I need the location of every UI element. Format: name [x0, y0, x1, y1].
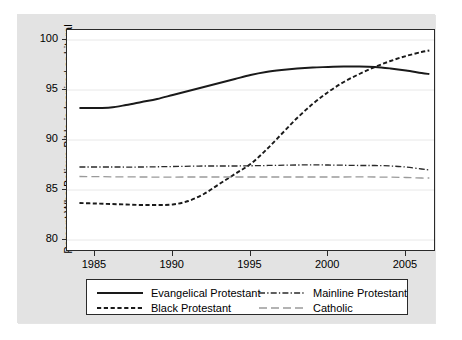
legend-key-long-dash-icon [258, 302, 306, 314]
legend-key-dashed-icon [96, 302, 144, 314]
legend-label-black-protestant: Black Protestant [151, 302, 231, 314]
legend-label-catholic: Catholic [313, 302, 353, 314]
x-tick-mark-1985 [94, 251, 95, 256]
x-tick-mark-2000 [327, 251, 328, 256]
plot-area [66, 29, 435, 251]
x-tick-mark-1995 [250, 251, 251, 256]
y-tick-label-85: 85 [30, 183, 58, 194]
legend-entry-black-protestant: Black Protestant [96, 300, 231, 316]
x-tick-label-1990: 1990 [152, 258, 192, 270]
x-tick-label-1995: 1995 [230, 258, 270, 270]
y-tick-mark-80 [62, 239, 66, 240]
legend-entry-mainline-protestant: Mainline Protestant [258, 285, 407, 301]
series-line-evangelical-protestant [79, 66, 429, 108]
y-tick-mark-95 [62, 89, 66, 90]
x-tick-mark-1990 [172, 251, 173, 256]
chart-legend: Evangelical Protestant Black Protestant … [86, 279, 408, 315]
x-tick-label-2005: 2005 [385, 258, 425, 270]
legend-key-dash-dot-icon [258, 287, 306, 299]
legend-entry-evangelical-protestant: Evangelical Protestant [96, 285, 260, 301]
y-tick-mark-85 [62, 189, 66, 190]
series-line-catholic [79, 177, 429, 179]
x-tick-label-2000: 2000 [307, 258, 347, 270]
legend-entry-catholic: Catholic [258, 300, 353, 316]
y-tick-mark-100 [62, 39, 66, 40]
y-tick-label-100: 100 [30, 33, 58, 44]
y-axis: Percent Who Believe Bible is Inspired or… [30, 0, 62, 340]
y-tick-label-80: 80 [30, 233, 58, 244]
series-line-mainline-protestant [79, 165, 429, 170]
legend-label-evangelical-protestant: Evangelical Protestant [151, 287, 260, 299]
y-tick-label-90: 90 [30, 133, 58, 144]
y-tick-label-95: 95 [30, 83, 58, 94]
y-tick-mark-90 [62, 139, 66, 140]
x-tick-mark-2005 [405, 251, 406, 256]
plot-svg [67, 30, 434, 250]
legend-key-solid-icon [96, 287, 144, 299]
legend-label-mainline-protestant: Mainline Protestant [313, 287, 407, 299]
chart-figure: Percent Who Believe Bible is Inspired or… [0, 0, 462, 340]
x-tick-label-1985: 1985 [74, 258, 114, 270]
